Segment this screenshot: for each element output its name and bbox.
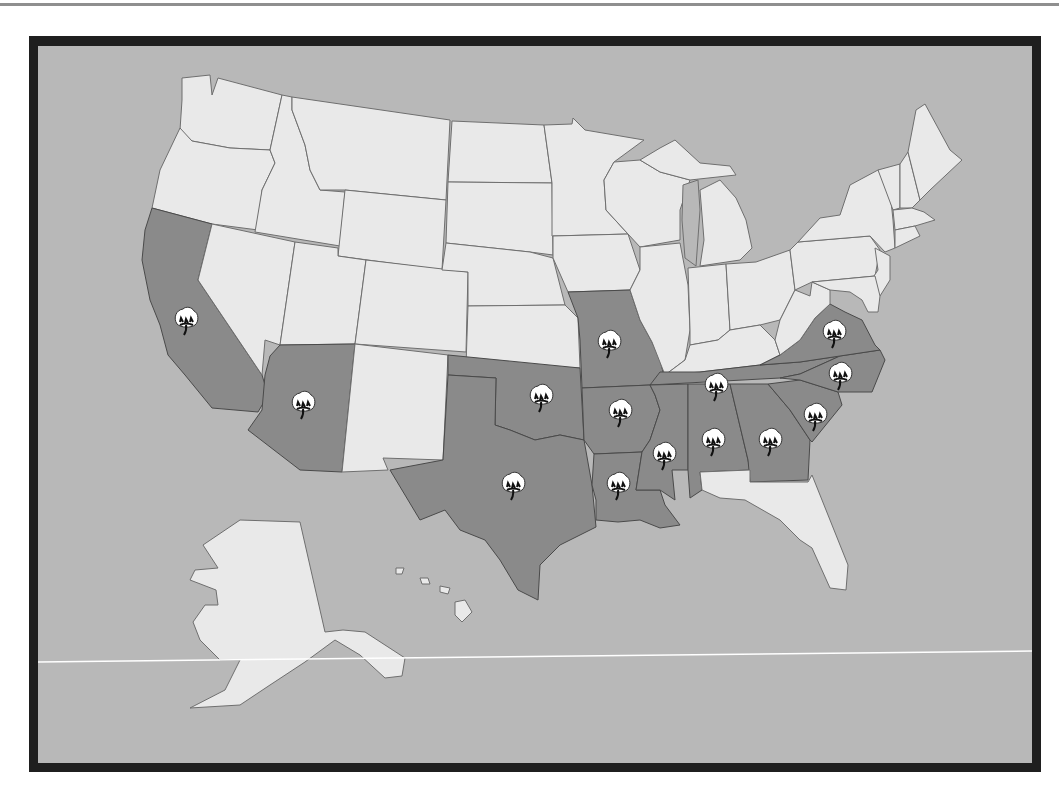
state-iowa [553,234,640,292]
state-colorado [355,260,468,352]
state-indiana [688,264,730,345]
state-florida [700,470,848,590]
state-hawaii-maui [440,586,450,594]
state-maine [908,104,962,200]
state-connecticut-ri [895,226,920,248]
us-cotton-map [38,46,1032,763]
state-alaska [190,520,405,708]
state-michigan-lp [700,180,752,266]
lake-michigan [682,180,700,266]
map-area [38,46,1032,763]
state-south-dakota [446,182,553,255]
scan-line [38,651,1032,662]
state-hawaii-oahu [420,578,430,584]
state-hawaii-big [455,600,472,622]
state-north-dakota [448,121,552,183]
map-frame [29,36,1041,772]
state-washington [180,75,282,150]
state-new-mexico [342,344,448,472]
state-hawaii-kauai [396,568,404,574]
top-rule [0,3,1059,6]
